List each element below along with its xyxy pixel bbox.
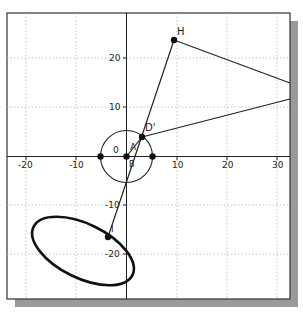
label-zero: 0 <box>113 145 119 155</box>
y-tick-label: 10 <box>109 102 121 112</box>
x-tick-label: 30 <box>272 160 284 170</box>
label-I: I <box>111 224 114 234</box>
label-H: H <box>177 26 185 37</box>
label-A: A <box>130 142 137 152</box>
point-A[interactable] <box>123 153 129 159</box>
x-tick-label: -20 <box>18 160 33 170</box>
x-tick-label: 10 <box>172 160 184 170</box>
point-D-prime[interactable] <box>139 134 145 140</box>
geometry-canvas: -20 -10 10 20 30 20 10 -10 -20 H D' 0 A … <box>0 0 303 314</box>
point-I[interactable] <box>105 234 111 240</box>
point-circle-left[interactable] <box>97 153 103 159</box>
y-tick-label: -20 <box>105 249 120 259</box>
point-H[interactable] <box>171 37 177 43</box>
x-tick-label: -10 <box>69 160 84 170</box>
label-B: B <box>129 160 135 169</box>
point-circle-right[interactable] <box>149 153 155 159</box>
label-D-prime: D' <box>145 122 155 133</box>
x-tick-label: 20 <box>222 160 234 170</box>
y-tick-label: 20 <box>109 53 121 63</box>
